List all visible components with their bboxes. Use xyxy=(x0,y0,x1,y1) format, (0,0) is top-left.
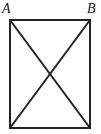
rectangle-diagonals-svg xyxy=(0,0,101,134)
vertex-label-a: A xyxy=(2,2,11,16)
geometry-figure: A B xyxy=(0,0,101,134)
vertex-label-b: B xyxy=(87,2,96,16)
